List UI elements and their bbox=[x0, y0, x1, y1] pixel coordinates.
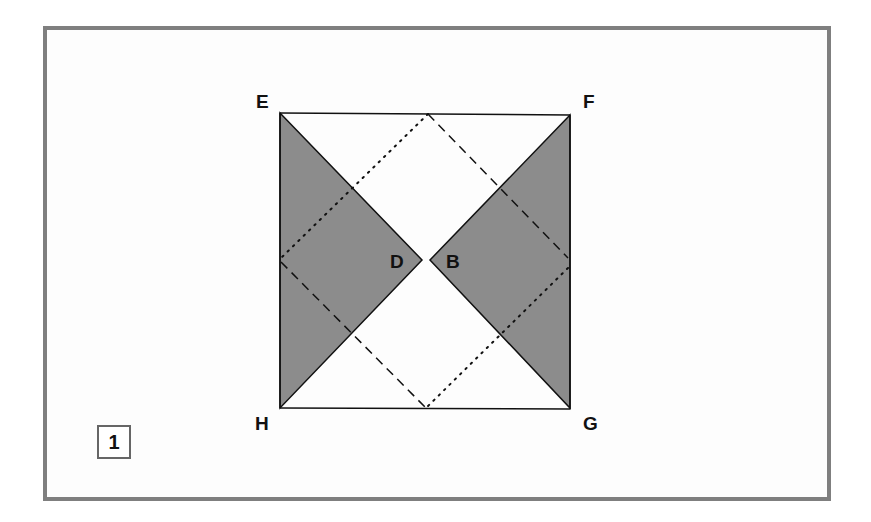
label-g: G bbox=[583, 413, 598, 434]
label-f: F bbox=[583, 91, 595, 112]
label-b: B bbox=[446, 251, 460, 272]
label-e: E bbox=[256, 91, 269, 112]
step-number-box: 1 bbox=[97, 425, 131, 459]
label-h: H bbox=[255, 413, 269, 434]
label-d: D bbox=[390, 251, 404, 272]
